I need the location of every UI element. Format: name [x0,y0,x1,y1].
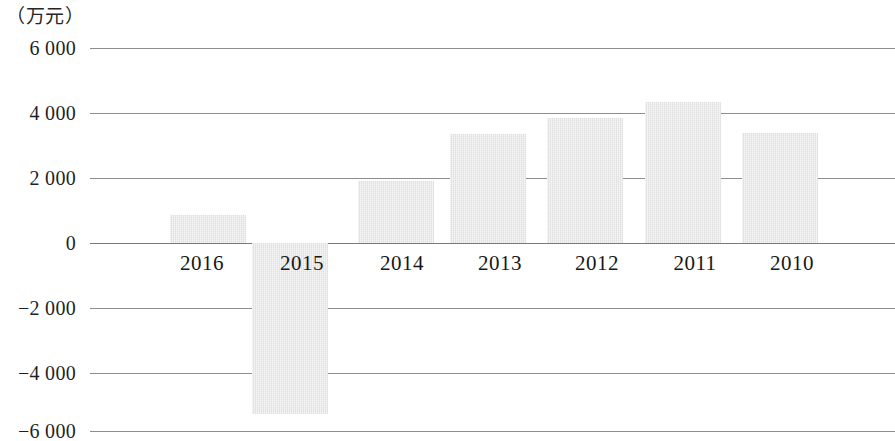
y-axis-tick-label: 4 000 [0,103,90,123]
x-axis-tick-label-2016: 2016 [152,250,252,276]
x-axis-tick-label-2012: 2012 [547,250,647,276]
x-axis-tick-label-2015: 2015 [252,250,352,276]
gridline-neg4000 [90,373,895,374]
y-axis-tick-label: 6 000 [0,38,90,58]
x-axis-tick-label-2013: 2013 [450,250,550,276]
x-axis-tick-label-2014: 2014 [352,250,452,276]
bar-2014 [358,181,434,243]
gridline-neg2000 [90,308,895,309]
gridline-6000 [90,48,895,49]
x-axis-tick-label-2011: 2011 [645,250,745,276]
y-axis-tick-label: −2 000 [0,298,90,318]
x-axis-tick-label-2010: 2010 [742,250,842,276]
y-axis-tick-label: −4 000 [0,363,90,383]
y-axis-tick-label: 2 000 [0,168,90,188]
bar-chart: （万元） 6 0004 0002 0000−2 000−4 000−6 0002… [0,0,895,441]
gridline-4000 [90,113,895,114]
plot-area: 6 0004 0002 0000−2 000−4 000−6 000201620… [0,0,895,441]
gridline-0 [90,243,895,244]
gridline-neg6000 [90,431,895,432]
bar-2016 [170,215,246,243]
bar-2011 [645,102,721,243]
y-axis-tick-label: 0 [0,233,90,253]
y-axis-tick-label: −6 000 [0,421,90,441]
bar-2010 [742,133,818,244]
bar-2012 [547,118,623,243]
bar-2013 [450,134,526,243]
